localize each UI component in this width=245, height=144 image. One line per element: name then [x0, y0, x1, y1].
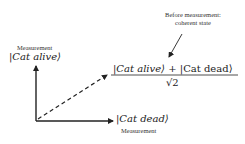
y-axis-measurement-label: Measurement [17, 44, 52, 51]
y-axis-ket-label: |Cat alive⟩ [9, 51, 61, 62]
annotation-line-1: Before measurement: [150, 11, 236, 19]
numerator-cat-alive: |Cat alive⟩ [113, 63, 165, 74]
x-axis-measurement-label: Measurement [121, 127, 156, 134]
numerator-cat-dead: |Cat dead⟩ [180, 63, 233, 74]
annotation-label: Before measurement: coherent state [150, 11, 236, 27]
numerator-plus: + [168, 63, 176, 74]
annotation-pointer-arrow [169, 34, 182, 57]
superposition-vector-arrow [38, 75, 107, 119]
superposition-numerator: |Cat alive⟩ + |Cat dead⟩ [113, 63, 233, 74]
x-axis-ket-label: |Cat dead⟩ [116, 113, 169, 124]
superposition-denominator: √2 [166, 77, 179, 88]
annotation-line-2: coherent state [150, 19, 236, 27]
